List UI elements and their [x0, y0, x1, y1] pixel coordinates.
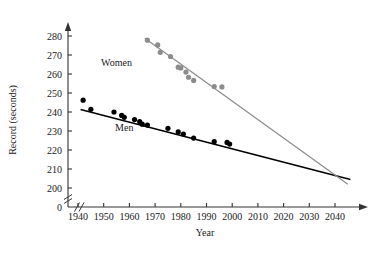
data-point: [178, 65, 183, 70]
series-men: [81, 98, 351, 180]
series-annotation-women: Women: [101, 57, 132, 68]
x-tick-label: 2020: [274, 211, 294, 222]
y-tick-label: 210: [47, 164, 62, 175]
x-axis-arrowhead: [359, 204, 368, 210]
x-tick-label: 2040: [325, 211, 345, 222]
y-axis-arrowhead: [65, 22, 71, 31]
x-tick-label: 1970: [145, 211, 165, 222]
data-point: [191, 135, 196, 140]
data-point: [191, 78, 196, 83]
trend-line-women: [145, 38, 348, 184]
data-point: [81, 98, 86, 103]
series-annotation-men: Men: [115, 122, 133, 133]
trend-line-men: [81, 110, 351, 180]
data-point: [158, 50, 163, 55]
y-tick-label: 280: [47, 31, 62, 42]
x-tick-label: 1940: [68, 211, 88, 222]
x-tick-label: 1960: [119, 211, 139, 222]
y-tick-label: 230: [47, 126, 62, 137]
x-tick-label: 2000: [222, 211, 242, 222]
x-axis-title: Year: [196, 227, 215, 238]
data-point: [219, 84, 224, 89]
series-women: [145, 38, 348, 185]
x-tick-label: 2010: [248, 211, 268, 222]
data-point: [212, 84, 217, 89]
x-tick-label: 1980: [171, 211, 191, 222]
data-point: [145, 38, 150, 43]
y-tick-label: 220: [47, 145, 62, 156]
data-point: [168, 54, 173, 59]
data-point: [122, 115, 127, 120]
y-tick-label: 200: [47, 183, 62, 194]
x-tick-label: 1950: [94, 211, 114, 222]
origin-label: 0: [57, 202, 62, 213]
data-point: [88, 107, 93, 112]
y-tick-label: 270: [47, 50, 62, 61]
data-point: [145, 123, 150, 128]
data-point: [111, 109, 116, 114]
y-axis-title: Record (seconds): [7, 85, 19, 155]
chart-canvas: 2002102202302402502602702800194019501960…: [0, 0, 376, 258]
record-vs-year-scatter-chart: 2002102202302402502602702800194019501960…: [0, 0, 376, 258]
data-point: [181, 131, 186, 136]
data-point: [212, 139, 217, 144]
data-point: [155, 42, 160, 47]
x-tick-label: 1990: [197, 211, 217, 222]
data-point: [186, 75, 191, 80]
y-tick-label: 250: [47, 88, 62, 99]
data-point: [176, 129, 181, 134]
data-point: [165, 126, 170, 131]
y-tick-label: 260: [47, 69, 62, 80]
data-point: [227, 142, 232, 147]
data-point: [183, 70, 188, 75]
y-tick-label: 240: [47, 107, 62, 118]
axes-layer: 2002102202302402502602702800194019501960…: [47, 22, 368, 222]
x-tick-label: 2030: [299, 211, 319, 222]
data-point: [140, 122, 145, 127]
